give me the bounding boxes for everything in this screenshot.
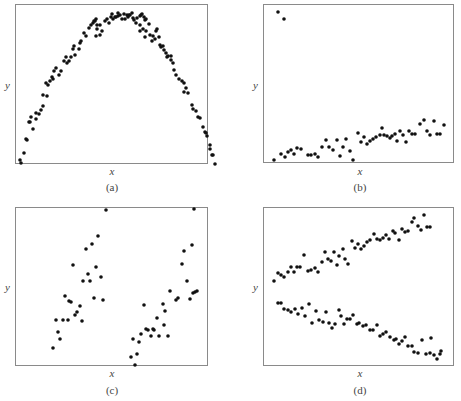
data-point <box>327 321 331 325</box>
data-point <box>144 29 148 33</box>
data-point <box>296 312 300 316</box>
data-point <box>139 332 143 336</box>
data-point <box>194 109 198 113</box>
data-point <box>140 12 144 16</box>
data-point <box>388 335 392 339</box>
data-point <box>413 132 417 136</box>
data-point <box>400 339 404 343</box>
data-point <box>307 302 311 306</box>
data-point <box>320 260 324 264</box>
data-point <box>192 207 196 211</box>
data-point <box>381 236 385 240</box>
data-point <box>54 318 58 322</box>
data-point <box>84 34 88 38</box>
data-point <box>100 29 104 33</box>
data-point <box>41 93 45 97</box>
data-point <box>78 304 82 308</box>
data-point <box>71 263 75 267</box>
data-point <box>73 53 77 57</box>
data-point <box>283 155 287 159</box>
data-point <box>362 244 366 248</box>
data-point <box>309 268 313 272</box>
x-axis-label-d: x <box>350 367 370 379</box>
data-point <box>406 229 410 233</box>
data-point <box>134 21 138 25</box>
data-point <box>378 133 382 137</box>
data-point <box>176 296 180 300</box>
data-point <box>182 81 186 85</box>
data-point <box>394 337 398 341</box>
data-point <box>174 73 178 77</box>
data-point <box>300 306 304 310</box>
data-point <box>316 270 320 274</box>
data-point <box>137 340 141 344</box>
data-point <box>177 77 181 81</box>
data-point <box>310 321 314 325</box>
data-point <box>282 307 286 311</box>
data-point <box>372 232 376 236</box>
data-point <box>299 147 303 151</box>
data-point <box>59 69 63 73</box>
data-point <box>169 58 173 62</box>
caption-d: (d) <box>345 384 375 396</box>
data-point <box>22 151 26 155</box>
data-point <box>201 125 205 129</box>
data-point <box>341 247 345 251</box>
data-point <box>28 120 32 124</box>
data-point <box>357 321 361 325</box>
data-point <box>407 129 411 133</box>
plot-frame-b <box>263 4 454 163</box>
data-point <box>29 115 33 119</box>
data-point <box>335 263 339 267</box>
data-point <box>359 140 363 144</box>
scatter-points-a <box>16 5 209 165</box>
data-point <box>442 123 446 127</box>
data-point <box>350 239 354 243</box>
data-point <box>62 59 66 63</box>
data-point <box>289 310 293 314</box>
data-point <box>67 59 71 63</box>
data-point <box>320 145 324 149</box>
data-point <box>105 17 109 21</box>
data-point <box>276 10 280 14</box>
data-point <box>208 147 212 151</box>
data-point <box>419 228 423 232</box>
data-point <box>180 262 184 266</box>
data-point <box>439 349 443 353</box>
data-point <box>39 108 43 112</box>
data-point <box>385 134 389 138</box>
data-point <box>292 152 296 156</box>
data-point <box>330 326 334 330</box>
data-point <box>135 16 139 20</box>
data-point <box>412 216 416 220</box>
data-point <box>298 265 302 269</box>
data-point <box>98 33 102 37</box>
data-point <box>188 297 192 301</box>
data-point <box>92 296 96 300</box>
data-point <box>337 308 341 312</box>
data-point <box>142 303 146 307</box>
data-point <box>198 116 202 120</box>
data-point <box>428 351 432 355</box>
data-point <box>351 313 355 317</box>
data-point <box>316 155 320 159</box>
data-point <box>164 51 168 55</box>
data-point <box>424 352 428 356</box>
data-point <box>418 122 422 126</box>
data-point <box>45 94 49 98</box>
data-point <box>406 344 410 348</box>
data-point <box>195 289 199 293</box>
data-point <box>321 320 325 324</box>
data-point <box>94 17 98 21</box>
data-point <box>432 119 436 123</box>
data-point <box>286 150 290 154</box>
data-point <box>422 118 426 122</box>
data-point <box>101 298 105 302</box>
data-point <box>73 313 77 317</box>
data-point <box>348 317 352 321</box>
data-point <box>393 231 397 235</box>
data-point <box>88 279 92 283</box>
data-point <box>152 328 156 332</box>
data-point <box>324 138 328 142</box>
data-point <box>335 138 339 142</box>
